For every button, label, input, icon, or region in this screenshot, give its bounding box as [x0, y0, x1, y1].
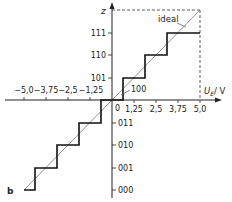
y-axis-label: z — [100, 6, 106, 16]
x-tick-label-1-25: 1,25 — [125, 105, 143, 114]
x-tick-label-3-75: 3,75 — [169, 105, 187, 114]
x-tick-label-neg-1-25: −1,25 — [79, 86, 104, 95]
x-axis-label-unit: / V — [214, 86, 226, 96]
y-tick-label-000: 000 — [118, 186, 133, 195]
x-tick-label-neg-3-75: −3,75 — [34, 86, 59, 95]
x-tick-label-neg-2-5: −2,5 — [58, 86, 77, 95]
x-tick-label-neg-5: −5,0 — [14, 86, 33, 95]
x-axis-arrow-icon — [215, 98, 222, 103]
y-axis-arrow-icon — [110, 2, 115, 9]
y-tick-label-011: 011 — [118, 119, 133, 128]
y-tick-label-010: 010 — [118, 141, 133, 150]
x-axis-label: UE/ V — [204, 86, 226, 97]
adc-transfer-diagram: z ideal 111 110 101 100 011 010 001 000 … — [0, 0, 232, 202]
ideal-label: ideal — [158, 14, 179, 24]
y-tick-label-001: 001 — [118, 164, 133, 173]
y-tick-label-111: 111 — [91, 29, 106, 38]
panel-label: b — [7, 186, 14, 196]
y-tick-label-110: 110 — [91, 51, 106, 60]
y-tick-label-101: 101 — [91, 74, 106, 83]
y-tick-label-100: 100 — [131, 85, 146, 94]
x-tick-label-2-5: 2,5 — [150, 105, 163, 114]
x-tick-label-5: 5,0 — [194, 105, 207, 114]
origin-label: 0 — [115, 104, 120, 113]
